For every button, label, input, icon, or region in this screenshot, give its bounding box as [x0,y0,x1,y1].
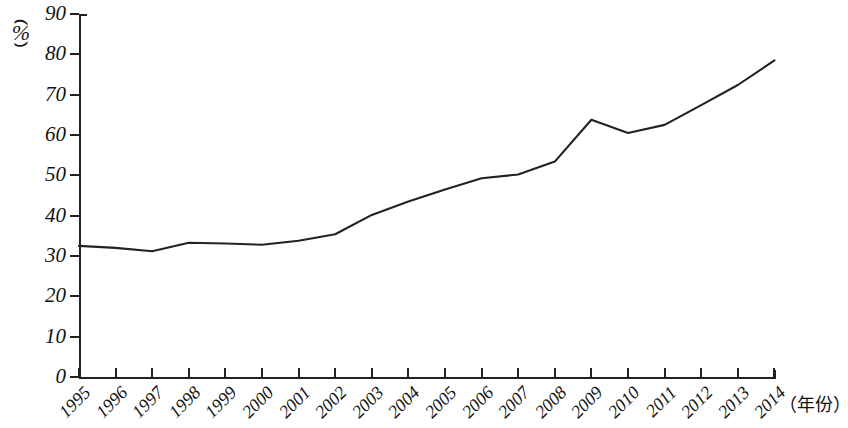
y-tick-label-wrap: 30 [0,245,66,266]
y-tick-label-10: 10 [2,326,66,347]
x-tick-2010 [627,368,629,378]
y-tick-label-30: 30 [2,245,66,266]
y-tick-label-wrap: 70 [0,84,66,105]
x-tick-label-2003: 2003 [341,383,386,428]
y-tick-label-50: 50 [2,164,66,185]
x-tick-2004 [407,368,409,378]
y-tick-label-wrap: 40 [0,205,66,226]
x-tick-2012 [700,368,702,378]
x-tick-label-1995: 1995 [48,383,93,428]
x-tick-2005 [444,368,446,378]
y-tick-label-70: 70 [2,84,66,105]
x-tick-1998 [188,368,190,378]
y-tick-80 [70,53,79,55]
x-tick-label-2002: 2002 [305,383,350,428]
y-tick-60 [70,134,79,136]
x-tick-2006 [481,368,483,378]
y-tick-10 [70,336,79,338]
x-tick-label-2009: 2009 [561,383,606,428]
y-tick-20 [70,295,79,297]
x-tick-1999 [224,368,226,378]
x-tick-1997 [151,368,153,378]
x-axis-title: （年份） [779,396,848,414]
x-tick-label-2006: 2006 [451,383,496,428]
y-tick-label-60: 60 [2,124,66,145]
x-tick-label-1998: 1998 [158,383,203,428]
y-tick-label-wrap: 60 [0,124,66,145]
x-tick-1996 [115,368,117,378]
x-tick-label-2011: 2011 [634,383,679,428]
x-tick-label-2004: 2004 [378,383,423,428]
data-line-series-0 [79,60,774,251]
x-tick-2013 [737,368,739,378]
y-tick-label-20: 20 [2,285,66,306]
y-tick-label-wrap: 0 [0,366,66,387]
x-tick-2009 [590,368,592,378]
y-axis-top-cap [79,14,87,16]
y-tick-label-40: 40 [2,205,66,226]
x-tick-label-1999: 1999 [195,383,240,428]
x-tick-label-2012: 2012 [671,383,716,428]
y-tick-40 [70,215,79,217]
y-tick-label-wrap: 90 [0,3,66,24]
x-tick-2003 [371,368,373,378]
x-tick-2001 [298,368,300,378]
y-tick-70 [70,94,79,96]
y-tick-50 [70,174,79,176]
y-tick-30 [70,255,79,257]
x-tick-2000 [261,368,263,378]
x-tick-label-1996: 1996 [85,383,130,428]
x-tick-2008 [554,368,556,378]
x-tick-label-1997: 1997 [122,383,167,428]
x-tick-2002 [334,368,336,378]
x-tick-label-2010: 2010 [597,383,642,428]
x-axis-line [79,377,776,379]
x-tick-2014 [773,368,775,378]
x-tick-label-2008: 2008 [524,383,569,428]
x-tick-1995 [78,368,80,378]
y-tick-label-90: 90 [2,3,66,24]
y-tick-label-wrap: 80 [0,43,66,64]
x-tick-2007 [517,368,519,378]
y-tick-label-wrap: 50 [0,164,66,185]
x-tick-label-2007: 2007 [488,383,533,428]
y-tick-label-80: 80 [2,43,66,64]
x-tick-label-2013: 2013 [707,383,752,428]
x-tick-2011 [664,368,666,378]
y-tick-label-0: 0 [2,366,66,387]
line-chart: （ % ） 0102030405060708090 19951996199719… [0,0,848,428]
x-tick-label-2001: 2001 [268,383,313,428]
plot-area [0,0,848,428]
y-tick-label-wrap: 20 [0,285,66,306]
x-tick-label-2005: 2005 [414,383,459,428]
y-tick-label-wrap: 10 [0,326,66,347]
x-tick-label-2000: 2000 [231,383,276,428]
y-tick-90 [70,13,79,15]
y-axis-line [79,14,81,379]
